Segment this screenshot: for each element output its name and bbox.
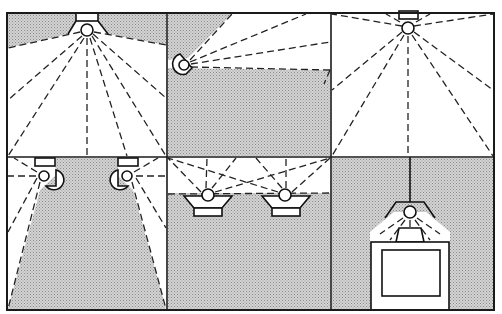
fixture-housing-left — [35, 158, 55, 166]
fixture-housing — [76, 13, 98, 21]
lighting-diagram — [0, 0, 502, 314]
panel-2-wall-spotlight — [168, 14, 330, 156]
bulb-icon — [279, 189, 291, 201]
shaded-area-left — [8, 14, 76, 48]
shaded-area-lower — [168, 68, 330, 156]
shaded-area-right — [98, 14, 166, 45]
bulb-icon — [402, 22, 414, 34]
panel-3-ceiling-downlight — [332, 11, 493, 156]
shaded-area-upper-left — [168, 14, 232, 60]
bulb-icon — [179, 60, 189, 70]
panel-4-twin-wall-lights — [8, 158, 166, 309]
panel-6-pendant-task-light — [332, 157, 493, 310]
shaded-area-center — [8, 158, 166, 309]
bulb-icon — [404, 206, 416, 218]
panel-5-twin-uplights — [168, 158, 330, 309]
uplight-base-left — [194, 208, 222, 216]
monitor-stand — [396, 228, 424, 242]
bulb-icon — [81, 24, 93, 36]
bulb-icon — [39, 171, 49, 181]
bulb-icon — [122, 171, 132, 181]
uplight-base-right — [272, 208, 300, 216]
bulb-icon — [202, 189, 214, 201]
panel-1-ceiling-downlight — [8, 13, 166, 156]
fixture-housing-right — [118, 158, 138, 166]
shaded-area-lower — [168, 193, 330, 309]
